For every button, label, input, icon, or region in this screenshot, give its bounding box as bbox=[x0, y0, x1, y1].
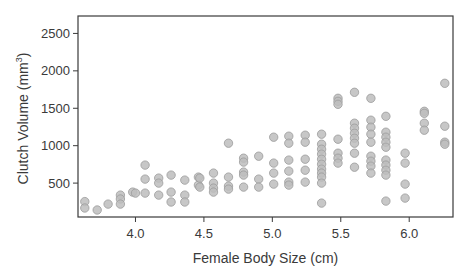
data-point bbox=[382, 197, 390, 205]
data-point bbox=[167, 188, 175, 196]
data-point bbox=[367, 130, 375, 138]
data-point bbox=[167, 171, 175, 179]
data-point bbox=[367, 94, 375, 102]
data-point bbox=[401, 159, 409, 167]
data-point bbox=[350, 139, 358, 147]
y-axis: 5001000150020002500 bbox=[41, 26, 78, 191]
data-point bbox=[196, 183, 204, 191]
data-point bbox=[93, 206, 101, 214]
x-tick-label: 6.0 bbox=[400, 226, 418, 241]
plot-frame bbox=[78, 16, 453, 217]
data-point bbox=[334, 135, 342, 143]
data-point bbox=[224, 139, 232, 147]
data-point bbox=[401, 194, 409, 202]
data-point bbox=[382, 171, 390, 179]
x-tick-label: 5.0 bbox=[263, 226, 281, 241]
data-point bbox=[441, 79, 449, 87]
data-point bbox=[224, 185, 232, 193]
data-point bbox=[81, 204, 89, 212]
data-points bbox=[81, 79, 449, 214]
y-tick-label: 2500 bbox=[41, 26, 70, 41]
data-point bbox=[224, 173, 232, 181]
data-point bbox=[270, 159, 278, 167]
data-point bbox=[181, 176, 189, 184]
data-point bbox=[239, 171, 247, 179]
data-point bbox=[317, 130, 325, 138]
data-point bbox=[441, 140, 449, 148]
data-point bbox=[285, 167, 293, 175]
x-axis-title: Female Body Size (cm) bbox=[193, 250, 338, 266]
x-tick-label: 4.0 bbox=[126, 226, 144, 241]
data-point bbox=[239, 158, 247, 166]
data-point bbox=[367, 169, 375, 177]
data-point bbox=[317, 199, 325, 207]
data-point bbox=[285, 156, 293, 164]
data-point bbox=[420, 109, 428, 117]
data-point bbox=[301, 155, 309, 163]
data-point bbox=[285, 181, 293, 189]
data-point bbox=[301, 178, 309, 186]
data-point bbox=[167, 198, 175, 206]
data-point bbox=[209, 169, 217, 177]
data-point bbox=[270, 133, 278, 141]
data-point bbox=[155, 179, 163, 187]
data-point bbox=[181, 198, 189, 206]
x-tick-label: 4.5 bbox=[195, 226, 213, 241]
data-point bbox=[104, 200, 112, 208]
data-point bbox=[350, 163, 358, 171]
data-point bbox=[401, 149, 409, 157]
data-point bbox=[270, 169, 278, 177]
data-point bbox=[131, 189, 139, 197]
data-point bbox=[334, 100, 342, 108]
data-point bbox=[334, 159, 342, 167]
data-point bbox=[141, 189, 149, 197]
data-point bbox=[382, 143, 390, 151]
data-point bbox=[255, 183, 263, 191]
y-tick-label: 500 bbox=[48, 176, 70, 191]
data-point bbox=[382, 112, 390, 120]
data-point bbox=[209, 188, 217, 196]
data-point bbox=[441, 122, 449, 130]
data-point bbox=[420, 126, 428, 134]
data-point bbox=[116, 200, 124, 208]
data-point bbox=[367, 138, 375, 146]
data-point bbox=[255, 152, 263, 160]
y-tick-label: 1000 bbox=[41, 138, 70, 153]
data-point bbox=[270, 180, 278, 188]
data-point bbox=[255, 175, 263, 183]
y-tick-label: 1500 bbox=[41, 101, 70, 116]
data-point bbox=[141, 161, 149, 169]
scatter-chart: 4.04.55.05.56.0 5001000150020002500 Fema… bbox=[0, 0, 470, 276]
data-point bbox=[350, 88, 358, 96]
data-point bbox=[141, 175, 149, 183]
data-point bbox=[196, 174, 204, 182]
data-point bbox=[239, 183, 247, 191]
data-point bbox=[317, 179, 325, 187]
data-point bbox=[401, 180, 409, 188]
data-point bbox=[155, 191, 163, 199]
x-tick-label: 5.5 bbox=[332, 226, 350, 241]
y-axis-title-close: ) bbox=[15, 53, 31, 58]
y-axis-title-main: Clutch Volume (mm bbox=[15, 62, 31, 184]
data-point bbox=[301, 138, 309, 146]
y-axis-title: Clutch Volume (mm3) bbox=[14, 53, 31, 185]
data-point bbox=[285, 139, 293, 147]
y-tick-label: 2000 bbox=[41, 63, 70, 78]
data-point bbox=[350, 149, 358, 157]
x-axis: 4.04.55.05.56.0 bbox=[126, 217, 418, 241]
data-point bbox=[301, 166, 309, 174]
